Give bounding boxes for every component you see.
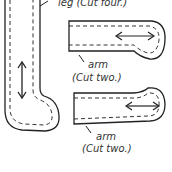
- arm-piece-bottom: [74, 88, 165, 133]
- grainline-arrow-icon: [18, 62, 26, 98]
- arm-count-top: (Cut two.): [72, 73, 122, 83]
- leg-label: leg (Cut four.): [58, 0, 127, 8]
- grainline-arrow-icon: [126, 102, 159, 110]
- arm-piece-top: [69, 21, 165, 62]
- arm-label-top: arm: [88, 60, 108, 70]
- arm-label-bottom: arm: [96, 132, 116, 142]
- arm-count-bottom: (Cut two.): [82, 144, 132, 154]
- leg-piece: [5, 0, 59, 131]
- grainline-arrow-icon: [116, 32, 154, 40]
